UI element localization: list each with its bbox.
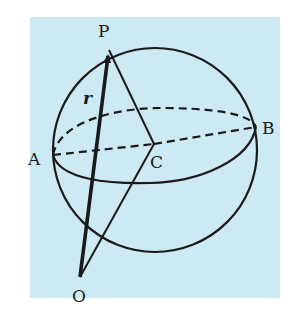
label-a: A bbox=[27, 149, 41, 169]
segment-o-c bbox=[80, 144, 154, 277]
segment-a-c bbox=[53, 144, 154, 155]
segment-c-b bbox=[154, 127, 256, 144]
segment-p-c bbox=[109, 50, 154, 144]
label-o: O bbox=[72, 286, 86, 306]
sphere-diagram: P A B C O r bbox=[0, 0, 298, 319]
sphere-outline bbox=[53, 48, 257, 252]
label-b: B bbox=[262, 118, 275, 138]
label-p: P bbox=[98, 21, 109, 41]
label-r: r bbox=[83, 88, 93, 108]
label-c: C bbox=[150, 152, 163, 172]
